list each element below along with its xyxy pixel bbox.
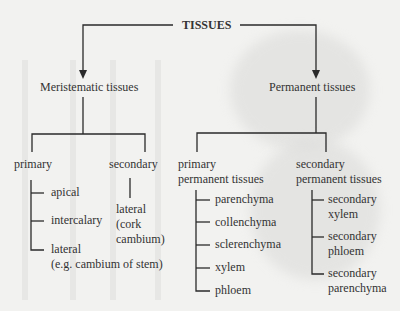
- leaf-secondary-parenchyma: secondary: [328, 266, 377, 281]
- leaf-secondary-xylem: secondary: [328, 192, 377, 207]
- leaf-collenchyma: collenchyma: [215, 215, 276, 230]
- leaf-secondary-phloem-2: phloem: [328, 244, 364, 259]
- permanent-secondary-node: secondary: [296, 157, 345, 172]
- permanent-primary-node-2: permanent tissues: [178, 172, 264, 187]
- permanent-secondary-node-2: permanent tissues: [296, 172, 382, 187]
- leaf-phloem: phloem: [215, 283, 251, 298]
- leaf-lateral-secondary-note2: cambium): [116, 232, 165, 247]
- leaf-parenchyma: parenchyma: [215, 192, 274, 207]
- permanent-node: Permanent tissues: [269, 80, 355, 95]
- leaf-lateral: lateral: [51, 242, 81, 257]
- leaf-secondary-xylem-2: xylem: [328, 207, 358, 222]
- leaf-lateral-secondary-note1: (cork: [116, 217, 141, 232]
- meristematic-secondary-node: secondary: [109, 157, 158, 172]
- leaf-xylem: xylem: [215, 260, 245, 275]
- meristematic-node: Meristematic tissues: [40, 80, 138, 95]
- meristematic-primary-node: primary: [14, 157, 52, 172]
- leaf-sclerenchyma: sclerenchyma: [215, 237, 281, 252]
- leaf-lateral-secondary: lateral: [116, 202, 146, 217]
- leaf-secondary-phloem: secondary: [328, 229, 377, 244]
- leaf-apical: apical: [51, 185, 80, 200]
- leaf-lateral-note: (e.g. cambium of stem): [51, 257, 163, 272]
- leaf-secondary-parenchyma-2: parenchyma: [328, 281, 387, 296]
- permanent-primary-node: primary: [178, 157, 216, 172]
- leaf-intercalary: intercalary: [51, 213, 102, 228]
- root-node: TISSUES: [182, 18, 231, 33]
